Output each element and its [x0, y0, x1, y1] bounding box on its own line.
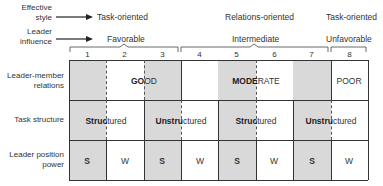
column-number: 7: [293, 50, 330, 59]
grid-top-border: [69, 60, 368, 61]
influence-intermediate: Intermediate: [232, 34, 279, 44]
solid-divider: [331, 60, 332, 100]
solid-divider: [293, 140, 294, 180]
grid-bottom-border: [69, 180, 368, 181]
grid-right-border: [368, 60, 369, 180]
right-arrow-icon: [56, 14, 93, 20]
position-power-strong: S: [234, 156, 240, 166]
task-structured: Structured: [85, 116, 126, 126]
column-number: 2: [106, 50, 143, 59]
position-power-strong: S: [159, 156, 165, 166]
solid-divider: [181, 140, 182, 180]
task-unstructured: Unstructured: [155, 116, 206, 126]
solid-divider: [144, 100, 145, 140]
column-number: 4: [181, 50, 218, 59]
position-power-weak: W: [196, 156, 204, 166]
column-number: 1: [69, 50, 106, 59]
grid-left-border: [69, 60, 70, 180]
style-relations-oriented: Relations-oriented: [225, 12, 294, 22]
style-task-oriented-right: Task-oriented: [326, 12, 377, 22]
solid-divider: [256, 140, 257, 180]
influence-unfavorable: Unfavorable: [326, 34, 372, 44]
column-number: 8: [331, 50, 368, 59]
solid-divider: [331, 140, 332, 180]
position-power-strong: S: [84, 156, 90, 166]
solid-divider: [218, 100, 219, 140]
column-number: 3: [144, 50, 181, 59]
position-power-weak: W: [345, 156, 353, 166]
column-number: 6: [256, 50, 293, 59]
leader-member-relations-label: Leader-member relations: [2, 71, 64, 91]
solid-divider: [181, 60, 182, 100]
lmr-moderate: MODERATE: [232, 76, 280, 86]
position-power-weak: W: [121, 156, 129, 166]
task-structure-label: Task structure: [2, 115, 64, 125]
lmr-poor: POOR: [336, 76, 361, 86]
solid-divider: [144, 140, 145, 180]
position-power-strong: S: [309, 156, 315, 166]
dashed-divider: [106, 60, 107, 100]
position-power-weak: W: [270, 156, 278, 166]
lmr-good: GOOD: [131, 76, 157, 86]
solid-divider: [293, 100, 294, 140]
task-structured: Structured: [235, 116, 276, 126]
task-unstructured: Unstructured: [305, 116, 356, 126]
leader-position-power-label: Leader position power: [2, 150, 64, 170]
solid-divider: [106, 140, 107, 180]
influence-favorable: Favorable: [107, 34, 145, 44]
solid-divider: [218, 140, 219, 180]
right-arrow-icon: [56, 36, 93, 42]
column-number: 5: [218, 50, 255, 59]
style-task-oriented-left: Task-oriented: [97, 12, 148, 22]
